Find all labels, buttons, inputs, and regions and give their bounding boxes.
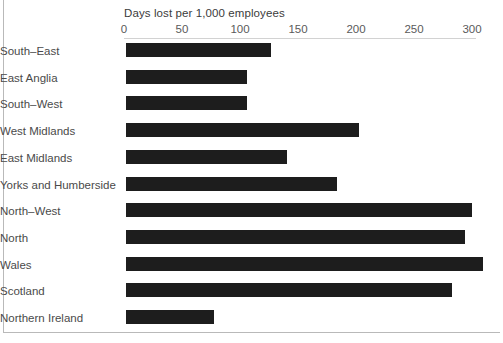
bar-row: South–West	[0, 94, 503, 121]
x-tick-250: 250	[404, 23, 423, 35]
bar-east-midlands	[126, 150, 287, 164]
bar-scotland	[126, 283, 452, 297]
bar-wales	[126, 257, 483, 271]
x-axis-tick-labels: 050100150200250300	[0, 23, 503, 37]
category-label-wrap: Wales	[0, 258, 114, 272]
bar-north-west	[126, 203, 472, 217]
category-label-east-anglia: East Anglia	[0, 71, 114, 85]
category-label-wrap: South–East	[0, 44, 114, 58]
x-axis-title: Days lost per 1,000 employees	[124, 7, 285, 19]
bar-east-anglia	[126, 70, 247, 84]
x-tick-100: 100	[230, 23, 249, 35]
bar-west-midlands	[126, 123, 359, 137]
x-tick-200: 200	[346, 23, 365, 35]
category-label-wrap: East Midlands	[0, 151, 114, 165]
category-label-wrap: Northern Ireland	[0, 311, 114, 325]
bar-row: East Midlands	[0, 148, 503, 175]
bar-row: East Anglia	[0, 68, 503, 95]
category-label-north-west: North–West	[0, 204, 114, 218]
x-tick-150: 150	[288, 23, 307, 35]
x-axis-line	[124, 38, 476, 39]
bar-row: North	[0, 228, 503, 255]
bar-row: Wales	[0, 255, 503, 282]
bar-northern-ireland	[126, 310, 214, 324]
bar-south-east	[126, 43, 271, 57]
bar-row: South–East	[0, 41, 503, 68]
bar-row: North–West	[0, 201, 503, 228]
category-label-wrap: Yorks and Humberside	[0, 178, 114, 192]
category-label-northern-ireland: Northern Ireland	[0, 311, 114, 325]
category-label-wales: Wales	[0, 258, 114, 272]
category-label-east-midlands: East Midlands	[0, 151, 114, 165]
bar-row: Scotland	[0, 281, 503, 308]
category-label-scotland: Scotland	[0, 284, 114, 298]
bar-south-west	[126, 96, 247, 110]
x-tick-50: 50	[176, 23, 189, 35]
bar-row: West Midlands	[0, 121, 503, 148]
category-label-south-west: South–West	[0, 97, 114, 111]
category-label-wrap: Scotland	[0, 284, 114, 298]
category-label-yorks-and-humberside: Yorks and Humberside	[0, 178, 114, 192]
bar-north	[126, 230, 465, 244]
category-label-wrap: East Anglia	[0, 71, 114, 85]
bar-chart-figure: Days lost per 1,000 employees 0501001502…	[0, 0, 503, 343]
category-label-wrap: West Midlands	[0, 124, 114, 138]
category-label-wrap: South–West	[0, 97, 114, 111]
category-label-south-east: South–East	[0, 44, 114, 58]
category-label-wrap: North	[0, 231, 114, 245]
bar-yorks-and-humberside	[126, 177, 337, 191]
bar-row: Yorks and Humberside	[0, 175, 503, 202]
category-label-west-midlands: West Midlands	[0, 124, 114, 138]
x-tick-300: 300	[462, 23, 481, 35]
x-tick-0: 0	[121, 23, 127, 35]
category-label-wrap: North–West	[0, 204, 114, 218]
plot-area: South–EastEast AngliaSouth–WestWest Midl…	[0, 41, 503, 332]
bar-row: Northern Ireland	[0, 308, 503, 335]
category-label-north: North	[0, 231, 114, 245]
